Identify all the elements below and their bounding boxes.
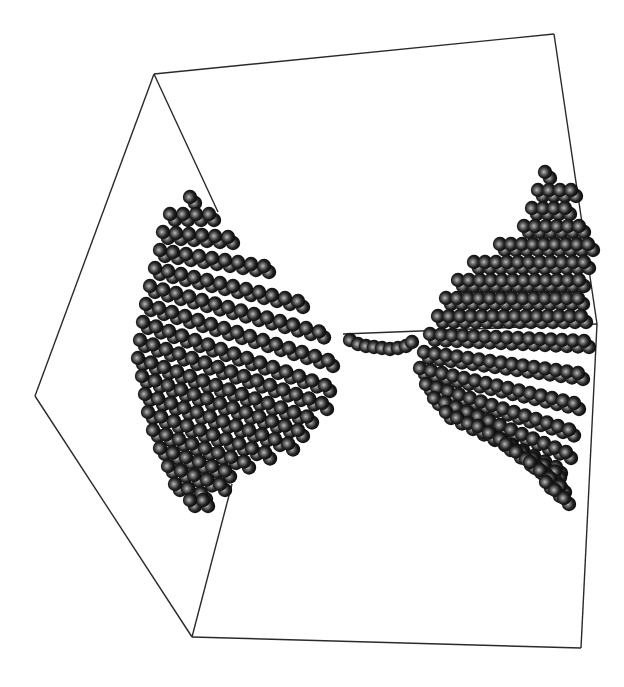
atom-sphere: [187, 387, 201, 401]
atom-sphere: [191, 313, 205, 327]
atom-sphere: [138, 387, 152, 401]
atomic-chain-bridge: [343, 333, 419, 356]
atom-sphere: [177, 400, 191, 414]
atom-sphere: [190, 405, 204, 419]
atom-sphere: [239, 282, 253, 296]
atom-sphere: [166, 445, 180, 459]
atom-sphere: [252, 285, 266, 299]
atom-sphere: [302, 391, 316, 405]
left-pyramid-cluster: [131, 190, 340, 513]
atom-sphere: [287, 405, 301, 419]
atom-sphere: [235, 387, 249, 401]
atom-sphere: [221, 300, 235, 314]
atom-sphere: [213, 396, 227, 410]
box-edge: [192, 637, 581, 648]
atom-sphere: [166, 245, 180, 259]
atom-sphere: [244, 257, 258, 271]
atom-sphere: [170, 364, 184, 378]
atom-sphere: [146, 423, 160, 437]
atom-sphere: [240, 351, 254, 365]
atom-sphere: [144, 355, 158, 369]
atom-sphere: [308, 349, 322, 363]
atom-sphere: [405, 335, 419, 349]
atom-sphere: [574, 309, 588, 323]
atom-sphere: [562, 422, 576, 436]
atom-sphere: [291, 423, 305, 437]
atom-sphere: [260, 310, 274, 324]
atom-sphere: [183, 190, 197, 204]
atom-sphere: [152, 301, 166, 315]
atom-sphere: [247, 307, 261, 321]
atom-sphere: [265, 414, 279, 428]
atom-sphere: [245, 441, 259, 455]
atom-sphere: [557, 491, 571, 505]
atom-sphere: [312, 324, 326, 338]
atom-sphere: [178, 309, 192, 323]
atom-sphere: [248, 391, 262, 405]
atom-sphere: [169, 226, 183, 240]
atom-sphere: [266, 360, 280, 374]
atom-sphere: [218, 463, 232, 477]
atom-sphere: [218, 253, 232, 267]
atom-sphere: [250, 373, 264, 387]
atom-sphere: [156, 225, 170, 239]
atom-sphere: [154, 409, 168, 423]
atom-sphere: [211, 445, 225, 459]
atom-sphere: [175, 328, 189, 342]
right-pyramid-cluster: [413, 165, 600, 511]
atom-sphere: [243, 329, 257, 343]
atom-sphere: [206, 427, 220, 441]
atom-sphere: [159, 342, 173, 356]
atom-sphere: [149, 319, 163, 333]
atom-sphere: [571, 291, 585, 305]
atom-sphere: [187, 468, 201, 482]
atom-sphere: [261, 396, 275, 410]
atomic-cluster-scene: [0, 0, 624, 687]
atom-sphere: [193, 423, 207, 437]
atom-sphere: [151, 391, 165, 405]
atom-sphere: [185, 351, 199, 365]
atom-sphere: [205, 251, 219, 265]
atom-sphere: [258, 445, 272, 459]
atom-sphere: [572, 219, 586, 233]
atom-sphere: [214, 342, 228, 356]
atom-sphere: [141, 405, 155, 419]
atom-sphere: [156, 282, 170, 296]
atom-sphere: [282, 341, 296, 355]
atom-sphere: [163, 207, 177, 221]
atom-sphere: [281, 436, 295, 450]
atom-sphere: [139, 297, 153, 311]
atom-sphere: [299, 321, 313, 335]
atom-sphere: [278, 291, 292, 305]
atom-sphere: [135, 369, 149, 383]
atom-sphere: [257, 259, 271, 273]
atom-sphere: [153, 243, 167, 257]
atom-sphere: [208, 229, 222, 243]
atom-sphere: [195, 228, 209, 242]
atom-sphere: [226, 279, 240, 293]
atom-sphere: [291, 294, 305, 308]
atom-sphere: [168, 477, 182, 491]
atom-sphere: [182, 289, 196, 303]
atom-sphere: [263, 378, 277, 392]
atom-sphere: [189, 207, 203, 221]
box-edge: [35, 74, 154, 396]
atom-sphere: [205, 459, 219, 473]
atom-sphere: [219, 432, 233, 446]
atom-sphere: [183, 369, 197, 383]
atom-sphere: [200, 391, 214, 405]
atom-sphere: [571, 366, 585, 380]
atom-sphere: [242, 423, 256, 437]
atom-sphere: [213, 276, 227, 290]
atom-sphere: [265, 288, 279, 302]
atom-sphere: [567, 396, 581, 410]
atom-sphere: [253, 355, 267, 369]
atom-sphere: [577, 255, 591, 269]
atom-sphere: [157, 360, 171, 374]
atom-sphere: [572, 273, 586, 287]
atom-sphere: [226, 400, 240, 414]
atom-sphere: [208, 296, 222, 310]
atom-sphere: [211, 360, 225, 374]
atom-sphere: [204, 317, 218, 331]
atom-sphere: [196, 493, 210, 507]
